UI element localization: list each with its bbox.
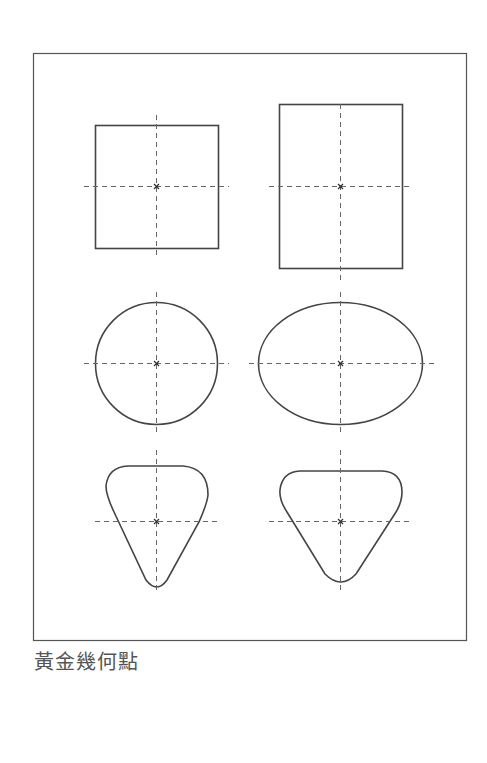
rectangle-shape [269, 104, 413, 280]
diagram-caption: 黃金幾何點 [34, 646, 139, 675]
square-shape [84, 115, 229, 258]
rounded-triangle-wide-shape [269, 450, 413, 592]
circle-shape [84, 292, 229, 436]
ellipse-shape [249, 292, 434, 436]
rounded-triangle-narrow-shape [95, 450, 218, 592]
